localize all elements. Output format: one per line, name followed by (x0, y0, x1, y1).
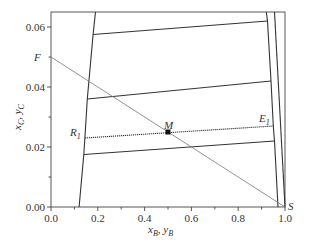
plot-frame (51, 12, 285, 207)
x-axis-title: xB, yB (147, 223, 173, 238)
y-tick-label: 0.04 (26, 81, 46, 93)
x-tick-label: 1.0 (278, 212, 292, 224)
label-R1: R1 (69, 126, 81, 141)
x-tick-label: 0.8 (231, 212, 245, 224)
y-tick-label: 0.02 (26, 141, 45, 153)
series-layer (51, 12, 285, 207)
label-F: F (33, 51, 41, 63)
y-tick-label: 0.06 (26, 21, 46, 33)
tie-line-4 (93, 21, 267, 35)
x-tick-label: 0.0 (44, 212, 58, 224)
x-tick-label: 0.2 (91, 212, 105, 224)
label-S: S (288, 200, 294, 212)
label-E1: E1 (258, 112, 270, 127)
raffinate-boundary (79, 12, 95, 207)
y-tick-label: 0.00 (26, 201, 46, 213)
tie-line-1 (84, 141, 275, 155)
tie-line-R1-E1 (85, 126, 273, 138)
ternary-lle-chart: 0.00.20.40.60.81.0 0.000.020.040.06 F S … (0, 0, 309, 248)
label-M: M (163, 119, 174, 131)
tie-line-3 (87, 81, 271, 99)
y-axis-ticks: 0.000.020.040.06 (26, 21, 51, 213)
x-tick-label: 0.6 (185, 212, 199, 224)
x-axis-ticks: 0.00.20.40.60.81.0 (44, 207, 292, 224)
y-axis-title: xC, yC (11, 103, 26, 131)
